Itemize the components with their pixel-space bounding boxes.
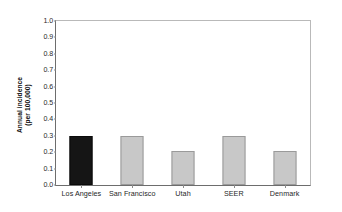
y-axis-title: Annual incidence (per 100,000): [13, 60, 35, 150]
x-axis-label-san-francisco: San Francisco: [109, 189, 156, 198]
x-axis-label-los-angeles: Los Angeles: [62, 189, 102, 198]
y-axis-tick-label: 0.6: [43, 83, 53, 91]
y-axis-tick-label: 0.0: [43, 181, 53, 189]
bar-los-angeles: [70, 136, 93, 185]
y-axis-tick-label: 0.5: [43, 99, 53, 107]
bar-utah: [171, 151, 194, 185]
y-axis-title-line-1: Annual incidence: [16, 77, 24, 133]
x-axis-tick-mark: [285, 185, 286, 188]
y-axis-tick-label: 0.7: [43, 66, 53, 74]
bar-chart-figure: Annual incidence (per 100,000) 0.00.10.2…: [0, 0, 342, 212]
x-axis-label-utah: Utah: [175, 189, 190, 198]
y-axis-tick-label: 0.3: [43, 132, 53, 140]
y-axis-tick-label: 0.8: [43, 50, 53, 58]
bar-seer: [222, 136, 245, 185]
y-axis-title-text: Annual incidence (per 100,000): [16, 77, 32, 133]
y-axis-tick-label: 0.1: [43, 165, 53, 173]
plot-area: 0.00.10.20.30.40.50.60.70.80.91.0 Los An…: [55, 20, 311, 186]
bar-san-francisco: [121, 136, 144, 185]
y-axis-tick-label: 0.4: [43, 115, 53, 123]
x-axis-tick-mark: [183, 185, 184, 188]
y-axis-tick-label: 1.0: [43, 17, 53, 25]
bar-slot: [56, 21, 107, 185]
y-axis-tick-label: 0.9: [43, 33, 53, 41]
bar-slot: [259, 21, 310, 185]
y-axis-title-line-2: (per 100,000): [24, 77, 32, 133]
x-axis-tick-mark: [81, 185, 82, 188]
bar-slot: [208, 21, 259, 185]
bar-slot: [107, 21, 158, 185]
y-axis-tick-label: 0.2: [43, 148, 53, 156]
x-axis-tick-mark: [132, 185, 133, 188]
bar-series: [56, 21, 310, 185]
bar-slot: [158, 21, 209, 185]
x-axis-label-denmark: Denmark: [270, 189, 300, 198]
bar-denmark: [273, 151, 296, 185]
x-axis-label-seer: SEER: [224, 189, 244, 198]
x-axis-tick-mark: [234, 185, 235, 188]
